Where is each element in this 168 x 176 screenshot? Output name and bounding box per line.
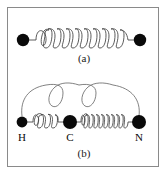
spring-hc-coil	[33, 114, 58, 128]
atom-c-node	[63, 115, 77, 129]
bend-arc-right-sweep	[113, 85, 139, 116]
bend-arc-loop-1	[46, 83, 79, 107]
atom-label-c: C	[66, 131, 73, 143]
figure-svg: (a) H C N (b	[0, 0, 168, 176]
atom-label-h: H	[18, 131, 26, 143]
bend-arc-loop-2	[79, 83, 113, 107]
figure-canvas: (a) H C N (b	[0, 0, 168, 176]
spring-a-coil	[36, 29, 128, 48]
panel-a: (a)	[17, 29, 146, 65]
atom-n-node	[132, 115, 146, 129]
mass-left	[17, 34, 29, 46]
panel-b: H C N (b)	[17, 83, 146, 160]
atom-label-n: N	[135, 131, 143, 143]
spring-cn-coil	[81, 114, 128, 128]
panel-b-caption: (b)	[78, 147, 91, 160]
bend-arc-left-sweep	[22, 85, 46, 116]
panel-a-caption: (a)	[78, 52, 91, 65]
atom-h-node	[17, 117, 28, 128]
mass-right	[134, 34, 146, 46]
